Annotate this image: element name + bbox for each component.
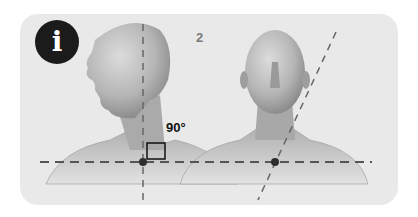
profile-pivot-point [139, 158, 147, 166]
info-icon: i [35, 20, 79, 64]
step-number: 2 [196, 30, 203, 45]
angle-label: 90° [166, 120, 186, 135]
info-glyph: i [52, 28, 63, 56]
front-pivot-point [271, 158, 279, 166]
